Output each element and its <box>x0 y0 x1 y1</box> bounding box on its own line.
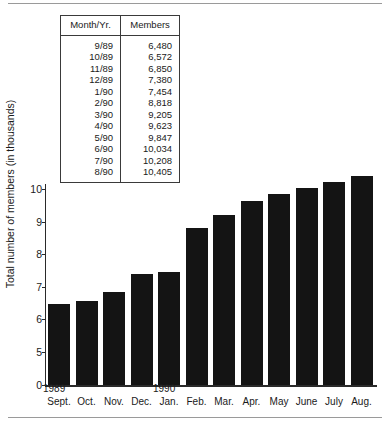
table-cell-members: 8,818 <box>121 97 179 109</box>
table-cell-members: 9,623 <box>121 120 179 132</box>
y-axis-tick-label: 6 <box>24 314 42 324</box>
table-row: 2/908,818 <box>61 97 179 109</box>
bar <box>131 274 153 385</box>
table-cell-month: 2/90 <box>61 97 121 109</box>
y-axis-tick-labels: 05678910 <box>22 0 42 431</box>
table-row: 12/897,380 <box>61 74 179 86</box>
y-axis-line <box>45 184 46 386</box>
table-cell-members: 6,480 <box>121 35 179 51</box>
y-axis-tick-mark <box>42 222 46 223</box>
table-row: 4/909,623 <box>61 120 179 132</box>
table-cell-month: 8/90 <box>61 166 121 182</box>
membership-bar-chart: Total number of members (in thousands) 0… <box>0 0 390 431</box>
table-row: 6/9010,034 <box>61 143 179 155</box>
table-row: 11/896,850 <box>61 63 179 75</box>
table-header-month: Month/Yr. <box>61 16 121 35</box>
bar <box>158 272 180 385</box>
table-header-members: Members <box>121 16 179 35</box>
y-axis-tick-label: 8 <box>24 249 42 259</box>
table-cell-members: 7,380 <box>121 74 179 86</box>
table-row: 9/896,480 <box>61 35 179 51</box>
table-cell-members: 7,454 <box>121 86 179 98</box>
bar <box>76 301 98 385</box>
table-row: 10/896,572 <box>61 51 179 63</box>
table-cell-members: 6,850 <box>121 63 179 75</box>
table-cell-members: 10,208 <box>121 155 179 167</box>
table-row: 7/9010,208 <box>61 155 179 167</box>
x-axis-year-label: 1990 <box>153 383 175 394</box>
y-axis-title: Total number of members (in thousands) <box>4 92 20 297</box>
table-row: 3/909,205 <box>61 109 179 121</box>
x-axis-year-label: 1989 <box>43 383 65 394</box>
bar <box>241 201 263 385</box>
table-cell-month: 12/89 <box>61 74 121 86</box>
table-row: 5/909,847 <box>61 132 179 144</box>
table-cell-month: 5/90 <box>61 132 121 144</box>
table-cell-month: 9/89 <box>61 35 121 51</box>
table-cell-month: 6/90 <box>61 143 121 155</box>
table-cell-month: 1/90 <box>61 86 121 98</box>
bar <box>296 188 318 385</box>
y-axis-tick-label: 7 <box>24 282 42 292</box>
table-cell-members: 9,205 <box>121 109 179 121</box>
y-axis-tick-label: 0 <box>24 380 42 390</box>
table-cell-members: 10,405 <box>121 166 179 182</box>
table-cell-month: 7/90 <box>61 155 121 167</box>
bar <box>186 228 208 385</box>
bar <box>351 176 373 385</box>
table-cell-month: 11/89 <box>61 63 121 75</box>
table-row: 1/907,454 <box>61 86 179 98</box>
table-cell-members: 6,572 <box>121 51 179 63</box>
y-axis-tick-mark <box>42 385 46 386</box>
table-cell-month: 10/89 <box>61 51 121 63</box>
y-axis-tick-label: 9 <box>24 217 42 227</box>
table-cell-members: 10,034 <box>121 143 179 155</box>
y-axis-tick-mark <box>42 287 46 288</box>
bar <box>48 304 70 385</box>
x-axis-line <box>45 385 377 387</box>
y-axis-tick-mark <box>42 189 46 190</box>
y-axis-tick-mark <box>42 254 46 255</box>
x-axis-month-label: Aug. <box>345 396 379 407</box>
bar <box>323 182 345 385</box>
y-axis-tick-mark <box>42 319 46 320</box>
membership-data-table: Month/Yr. Members 9/896,48010/896,57211/… <box>60 15 180 183</box>
bar <box>268 194 290 385</box>
table-cell-month: 3/90 <box>61 109 121 121</box>
table-cell-month: 4/90 <box>61 120 121 132</box>
table-header-row: Month/Yr. Members <box>61 16 179 35</box>
bar <box>213 215 235 385</box>
y-axis-tick-mark <box>42 352 46 353</box>
table-row: 8/9010,405 <box>61 166 179 182</box>
y-axis-tick-label: 10 <box>24 184 42 194</box>
y-axis-tick-label: 5 <box>24 347 42 357</box>
bar <box>103 292 125 385</box>
table-cell-members: 9,847 <box>121 132 179 144</box>
